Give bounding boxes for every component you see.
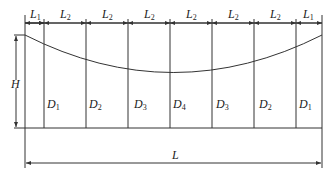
dim-label-l2-3: L2	[143, 7, 155, 22]
column-label-d1-right: D1	[298, 97, 312, 112]
column-label-d2-right: D2	[258, 97, 272, 112]
dim-label-l1-right: L1	[302, 7, 314, 22]
dim-label-l2-6: L2	[269, 7, 281, 22]
catenary-curve	[25, 35, 322, 73]
column-label-d4: D4	[172, 97, 186, 112]
dim-label-l2-2: L2	[101, 7, 113, 22]
catenary-span-diagram: L1 L2 L2 L2 L2 L2 L2 L1 H D1 D2 D3 D4 D3…	[0, 0, 328, 176]
column-label-d2-left: D2	[88, 97, 102, 112]
dim-label-l2-5: L2	[227, 7, 239, 22]
length-label: L	[171, 148, 179, 162]
column-dividers	[44, 19, 296, 128]
dim-label-l2-4: L2	[185, 7, 197, 22]
dim-label-l1-left: L1	[29, 7, 41, 22]
dim-label-l2-1: L2	[59, 7, 71, 22]
height-label: H	[10, 77, 21, 91]
column-label-d3-right: D3	[215, 97, 229, 112]
column-label-d3-left: D3	[133, 97, 147, 112]
column-label-d1-left: D1	[46, 97, 60, 112]
